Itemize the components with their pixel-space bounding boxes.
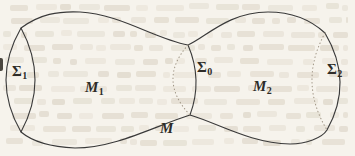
label-m: M [160,121,174,136]
label-m-2: M2 [253,79,272,94]
label-m-1: M1 [85,80,104,95]
scanned-figure-page: Σ1 M1 Σ0 M2 Σ2 M [0,0,355,156]
sigma0-front-arc [188,45,196,115]
cobordism-diagram [0,0,355,156]
sigma0-back-arc-dotted [173,45,190,115]
label-m-1-subscript: 1 [99,86,104,97]
label-m-2-symbol: M [253,78,266,94]
label-sigma-2: Σ2 [327,62,342,77]
sigma2-back-arc-dotted [312,33,327,130]
label-sigma-1: Σ1 [12,64,27,79]
label-sigma-2-symbol: Σ [327,61,337,77]
manifold-outline [21,12,340,148]
label-sigma-0-symbol: Σ [197,59,207,75]
label-sigma-2-subscript: 2 [337,68,342,79]
label-m-symbol: M [160,120,173,136]
sigma1-boundary-left-arc [6,28,21,132]
label-sigma-0: Σ0 [197,60,212,75]
label-m-2-subscript: 2 [267,85,272,96]
label-m-1-symbol: M [85,79,98,95]
label-sigma-1-subscript: 1 [22,70,27,81]
label-sigma-1-symbol: Σ [12,63,22,79]
label-sigma-0-subscript: 0 [207,66,212,77]
